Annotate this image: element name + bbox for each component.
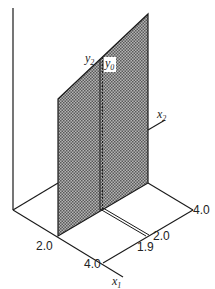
label-x1: x1 [111, 274, 121, 289]
tick-right-1-9: 1.9 [137, 240, 154, 254]
double-line-b [103, 208, 149, 235]
tick-right-4: 4.0 [193, 203, 210, 217]
tick-front-2: 2.0 [36, 239, 53, 253]
tick-right-2: 2.0 [153, 229, 170, 243]
label-x2: x2 [156, 107, 166, 123]
tick-front-4: 4.0 [84, 257, 101, 271]
label-y2: y2 [84, 51, 94, 67]
floor-back-right-edge [148, 183, 193, 210]
svg-text:x1: x1 [111, 274, 121, 289]
svg-text:y2: y2 [84, 51, 94, 67]
floor-left-edge [13, 183, 58, 210]
svg-text:x2: x2 [156, 107, 166, 123]
floor-front-right-edge [103, 210, 193, 263]
diagram-figure: y2 y0 x2 x1 2.0 4.0 4.0 2.0 1.9 [0, 0, 215, 289]
double-line-a [100, 209, 146, 236]
